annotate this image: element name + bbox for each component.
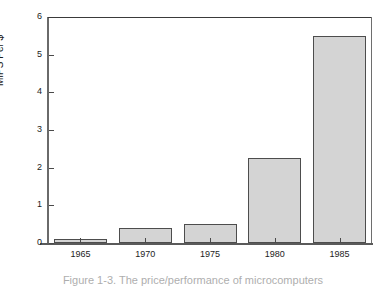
x-axis-tick: [210, 238, 211, 243]
plot-frame-top: [48, 17, 372, 18]
y-axis-tick-label: 6: [37, 12, 42, 21]
y-axis-tick-label: 2: [37, 163, 42, 172]
y-axis-tick: [49, 243, 54, 244]
y-axis-tick-label: 0: [37, 238, 42, 247]
y-axis-tick-label: 3: [37, 125, 42, 134]
x-axis-tick: [80, 238, 81, 243]
x-axis-tick-label: 1965: [70, 249, 90, 259]
y-axis-tick-label: 5: [37, 50, 42, 59]
x-axis-tick-label: 1985: [330, 249, 350, 259]
bar-1985: [313, 36, 366, 243]
plot-area: [48, 17, 372, 243]
x-axis-tick: [275, 238, 276, 243]
x-axis-tick-label: 1980: [265, 249, 285, 259]
x-axis-tick: [340, 238, 341, 243]
x-axis-tick-label: 1970: [135, 249, 155, 259]
figure-caption: Figure 1-3. The price/performance of mic…: [0, 274, 386, 287]
bar-1980: [248, 158, 301, 243]
x-axis-tick-label: 1975: [200, 249, 220, 259]
x-axis-spine: [40, 243, 373, 245]
y-axis-tick-label: 4: [37, 87, 42, 96]
x-axis-tick: [145, 238, 146, 243]
y-axis-tick-label: 1: [37, 200, 42, 209]
plot-frame-right: [371, 17, 372, 243]
y-axis-title: MIPS Per $: [0, 0, 5, 86]
